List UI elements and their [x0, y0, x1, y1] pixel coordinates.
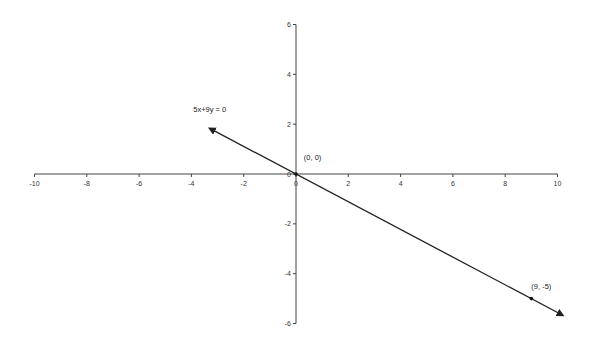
- x-tick-label: 0: [294, 180, 298, 187]
- y-tick-label: -4: [285, 270, 291, 277]
- x-tick-label: 4: [399, 180, 403, 187]
- y-tick-label: 2: [287, 121, 291, 128]
- x-tick-label: -10: [29, 180, 39, 187]
- series-line: [210, 128, 563, 315]
- x-tick-label: -4: [188, 180, 194, 187]
- chart-root: -10-8-6-4-20246810 6420-2-4-6 5x+9y = 0(…: [0, 0, 591, 349]
- x-tick-label: 8: [503, 180, 507, 187]
- line-chart: -10-8-6-4-20246810 6420-2-4-6 5x+9y = 0(…: [0, 0, 591, 349]
- x-tick-label: -2: [241, 180, 247, 187]
- data-point: [294, 172, 298, 176]
- annotations: 5x+9y = 0(0, 0)(9, -5): [193, 105, 552, 291]
- x-tick-label: 6: [451, 180, 455, 187]
- y-tick-label: 4: [287, 71, 291, 78]
- y-tick-label: 6: [287, 21, 291, 28]
- line-5x-9y-0: [210, 128, 563, 315]
- x-axis-ticks: -10-8-6-4-20246810: [29, 174, 561, 187]
- y-tick-label: -6: [285, 320, 291, 327]
- x-tick-label: 2: [346, 180, 350, 187]
- x-tick-label: -6: [136, 180, 142, 187]
- data-point: [530, 297, 534, 301]
- x-tick-label: 10: [554, 180, 562, 187]
- annotation-label: (0, 0): [304, 153, 322, 162]
- x-tick-label: -8: [84, 180, 90, 187]
- y-tick-label: -2: [285, 220, 291, 227]
- annotation-label: 5x+9y = 0: [193, 105, 226, 114]
- annotation-label: (9, -5): [531, 282, 552, 291]
